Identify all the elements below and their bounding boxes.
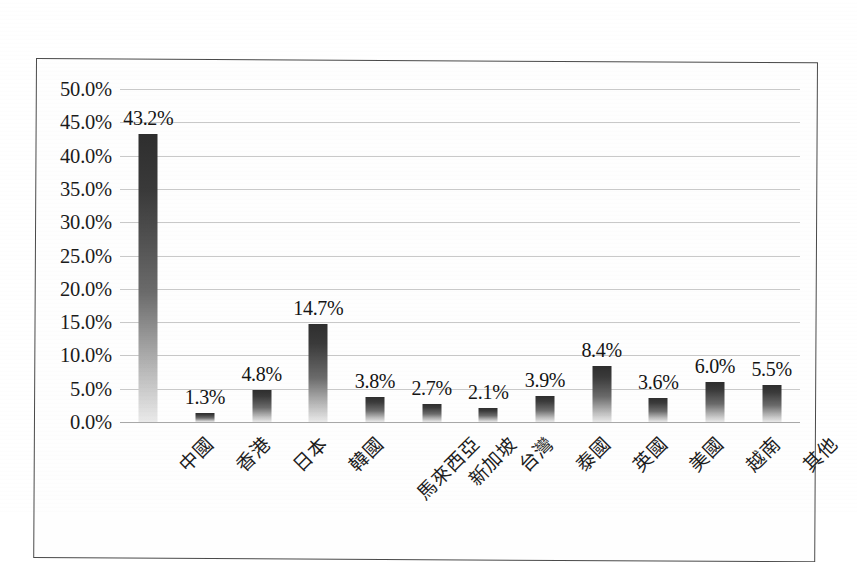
bar-column[interactable]: 43.2% <box>121 89 175 422</box>
y-axis: 50.0%45.0%40.0%35.0%30.0%25.0%20.0%15.0%… <box>26 89 112 422</box>
y-axis-tick-label: 45.0% <box>28 112 112 133</box>
x-axis-category-label: 中國 <box>172 430 219 477</box>
bar-value-label: 3.9% <box>525 370 565 390</box>
y-axis-tick-label: 35.0% <box>28 179 112 200</box>
x-axis-category-label: 英國 <box>625 430 672 477</box>
bar-column[interactable]: 5.5% <box>745 89 799 422</box>
bar-value-label: 43.2% <box>123 108 173 128</box>
bar-value-label: 1.3% <box>185 387 225 407</box>
y-axis-tick-label: 0.0% <box>28 412 112 433</box>
plot-area: 43.2%1.3%4.8%14.7%3.8%2.7%2.1%3.9%8.4%3.… <box>120 89 800 422</box>
bar[interactable] <box>479 408 498 422</box>
bar[interactable] <box>706 382 725 422</box>
y-axis-tick-label: 25.0% <box>28 246 112 267</box>
bar-column[interactable]: 14.7% <box>291 89 345 422</box>
bar-value-label: 3.8% <box>355 371 395 391</box>
bar-value-label: 4.8% <box>241 364 281 384</box>
bar[interactable] <box>252 390 271 422</box>
bar[interactable] <box>309 324 328 422</box>
x-axis-category-label: 香港 <box>228 430 275 477</box>
y-axis-tick-label: 50.0% <box>28 79 112 100</box>
bar-column[interactable]: 2.7% <box>405 89 459 422</box>
x-axis-labels: 中國香港日本韓國馬來西亞新加坡台灣泰國英國美國越南其他 <box>120 424 800 512</box>
bar-column[interactable]: 4.8% <box>235 89 289 422</box>
bar[interactable] <box>592 366 611 422</box>
bar-value-label: 6.0% <box>695 356 735 376</box>
bar-value-label: 2.7% <box>411 378 451 398</box>
bar-column[interactable]: 1.3% <box>178 89 232 422</box>
bar-value-label: 14.7% <box>293 298 343 318</box>
x-axis-category-label: 泰國 <box>568 430 615 477</box>
bar-column[interactable]: 6.0% <box>688 89 742 422</box>
y-axis-tick-label: 40.0% <box>28 146 112 167</box>
x-axis-category-label: 其他 <box>795 430 842 477</box>
x-axis-category-label: 台灣 <box>512 430 559 477</box>
y-axis-tick-label: 5.0% <box>28 379 112 400</box>
y-axis-tick-label: 30.0% <box>28 212 112 233</box>
bar[interactable] <box>196 413 215 422</box>
x-axis-category-label: 日本 <box>285 430 332 477</box>
y-axis-tick-label: 15.0% <box>28 312 112 333</box>
x-axis-category-label: 美國 <box>682 430 729 477</box>
bar-value-label: 8.4% <box>581 340 621 360</box>
bar[interactable] <box>366 397 385 422</box>
gridline <box>120 422 800 423</box>
x-axis-category-label: 韓國 <box>342 430 389 477</box>
bar[interactable] <box>649 398 668 422</box>
bar-column[interactable]: 8.4% <box>575 89 629 422</box>
bar[interactable] <box>536 396 555 422</box>
bar-column[interactable]: 3.6% <box>631 89 685 422</box>
bar[interactable] <box>139 134 158 422</box>
bar-column[interactable]: 2.1% <box>461 89 515 422</box>
bar[interactable] <box>422 404 441 422</box>
bar-column[interactable]: 3.9% <box>518 89 572 422</box>
bar-value-label: 5.5% <box>751 359 791 379</box>
y-axis-tick-label: 20.0% <box>28 279 112 300</box>
bar[interactable] <box>762 385 781 422</box>
bar-value-label: 3.6% <box>638 372 678 392</box>
y-axis-tick-label: 10.0% <box>28 345 112 366</box>
bar-value-label: 2.1% <box>468 382 508 402</box>
x-axis-category-label: 越南 <box>738 430 785 477</box>
bar-column[interactable]: 3.8% <box>348 89 402 422</box>
